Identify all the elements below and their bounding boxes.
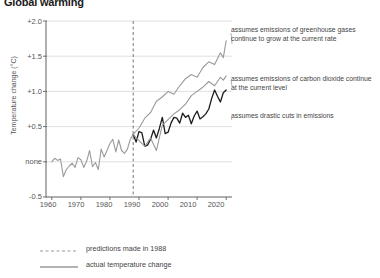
- legend-label-predictions: predictions made in 1988: [86, 244, 166, 253]
- series-line: [133, 41, 226, 135]
- series-line: [133, 76, 226, 151]
- series-line: [52, 134, 133, 176]
- legend-label-actual: actual temperature change: [86, 260, 172, 269]
- annotation-scenario-a: assumes emissions of greenhouse gases co…: [231, 25, 377, 43]
- annotation-scenario-b: assumes emissions of carbon dioxide cont…: [231, 74, 377, 92]
- chart-container: Global warming Temperature change (°C) +…: [0, 0, 380, 278]
- annotation-scenario-c: assumes drastic cuts in emissions: [231, 111, 377, 120]
- series-line: [133, 90, 226, 146]
